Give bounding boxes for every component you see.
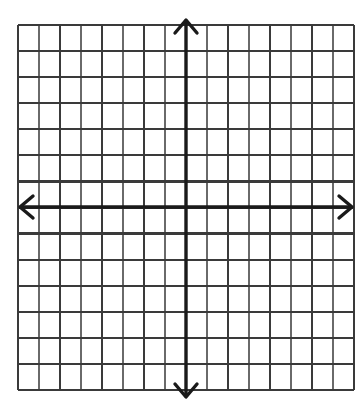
coordinate-plane	[0, 0, 361, 403]
